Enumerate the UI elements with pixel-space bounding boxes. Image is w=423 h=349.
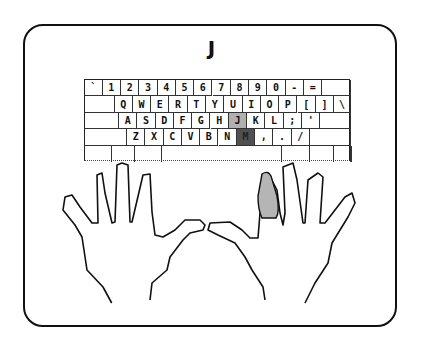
highlighted-finger-right-index <box>258 172 278 218</box>
left-hand-outline <box>63 163 205 303</box>
hands-diagram <box>0 0 423 349</box>
right-hand-outline <box>208 163 355 303</box>
